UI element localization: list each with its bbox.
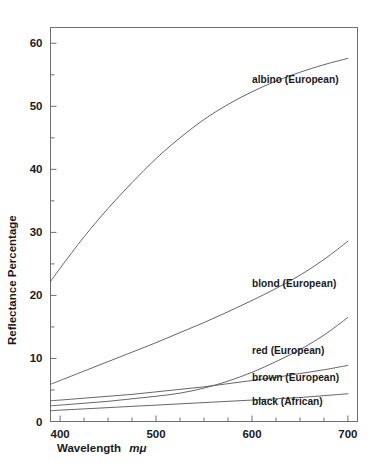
x-axis-title-text: Wavelength: [57, 442, 121, 454]
y-tick-label: 50: [30, 100, 43, 112]
reflectance-chart-figure: 400500600700 0102030405060 albino (Europ…: [0, 0, 390, 469]
series-label: albino (European): [252, 74, 339, 85]
chart-background: [0, 0, 390, 469]
y-tick-label: 20: [30, 289, 43, 301]
x-tick-label: 600: [242, 428, 261, 440]
series-label: red (European): [252, 345, 324, 356]
y-tick-label: 10: [30, 352, 43, 364]
x-axis-title: Wavelength mμ: [57, 442, 147, 454]
y-tick-label: 60: [30, 37, 43, 49]
y-tick-label: 40: [30, 163, 43, 175]
x-axis-title-units: mμ: [129, 442, 146, 454]
chart-canvas: 400500600700 0102030405060 albino (Europ…: [0, 0, 390, 469]
x-tick-label: 500: [146, 428, 165, 440]
series-label: brown (European): [252, 372, 339, 383]
y-tick-label: 30: [30, 226, 43, 238]
series-label: black (African): [252, 396, 323, 407]
x-tick-label: 400: [51, 428, 70, 440]
y-tick-label: 0: [36, 416, 42, 428]
x-tick-label: 700: [338, 428, 357, 440]
y-axis-title: Reflectance Percentage: [6, 215, 18, 345]
series-label: blond (European): [252, 278, 336, 289]
